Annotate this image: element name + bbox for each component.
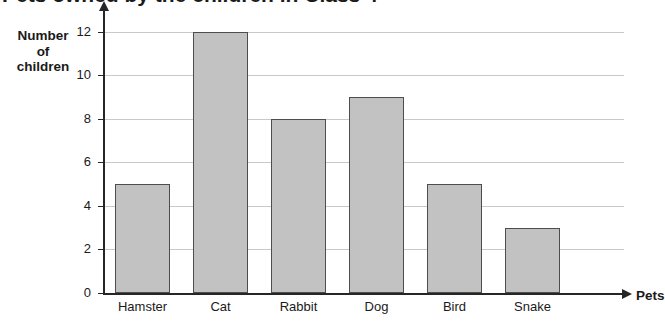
y-axis-tick	[98, 293, 105, 294]
y-axis-tick-label: 0	[65, 285, 91, 300]
y-axis-line	[103, 10, 105, 295]
bar-snake	[505, 228, 560, 293]
x-axis-title: Pets	[636, 288, 665, 303]
plot-area: HamsterCatRabbitDogBirdSnake	[103, 10, 624, 295]
y-axis-tick-label: 8	[65, 111, 91, 126]
y-axis-tick	[98, 32, 105, 33]
x-axis-label-snake: Snake	[493, 299, 572, 314]
y-axis-tick-label: 12	[65, 24, 91, 39]
corner-annotation-marks: ✎ ✐ ✎	[540, 0, 658, 3]
y-axis-tick	[98, 75, 105, 76]
bar-bird	[427, 184, 482, 293]
bar-hamster	[115, 184, 170, 293]
y-axis-tick	[98, 206, 105, 207]
y-axis-tick-label: 6	[65, 154, 91, 169]
y-axis-tick-label: 2	[65, 241, 91, 256]
x-axis-label-rabbit: Rabbit	[259, 299, 338, 314]
x-axis-label-cat: Cat	[181, 299, 260, 314]
gridline	[105, 75, 624, 76]
x-axis-label-hamster: Hamster	[103, 299, 182, 314]
y-axis-tick-label: 10	[65, 67, 91, 82]
x-axis-arrow	[622, 289, 632, 299]
y-axis-tick	[98, 162, 105, 163]
bar-dog	[349, 97, 404, 293]
y-axis-title-line-2: of	[0, 44, 86, 60]
y-axis-tick-label: 4	[65, 198, 91, 213]
y-axis-arrow	[99, 1, 109, 11]
bar-cat	[193, 32, 248, 293]
chart-title-text: Pets owned by the children in Class 4	[2, 0, 378, 7]
x-axis-label-dog: Dog	[337, 299, 416, 314]
y-axis-tick	[98, 119, 105, 120]
gridline	[105, 32, 624, 33]
x-axis-label-bird: Bird	[415, 299, 494, 314]
bar-rabbit	[271, 119, 326, 293]
x-axis-line	[103, 293, 624, 295]
y-axis-tick	[98, 249, 105, 250]
